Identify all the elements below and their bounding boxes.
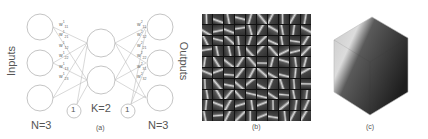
cube-visualization [0, 0, 428, 139]
caption-c: (c) [366, 123, 374, 130]
